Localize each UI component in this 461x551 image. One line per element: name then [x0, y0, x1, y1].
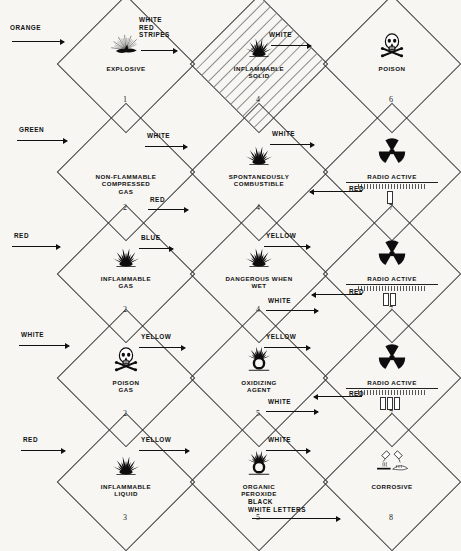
- annotation-arrow: [266, 411, 318, 412]
- radioactive-red-bar: [390, 293, 396, 306]
- annotation-arrow: [314, 396, 362, 397]
- colour-note-white: WHITE: [268, 297, 291, 305]
- placard-diamond: [57, 0, 196, 133]
- placard-diamond: [323, 0, 461, 133]
- placard-label: INFLAMMABLE SOLID: [211, 65, 307, 80]
- placard-diamond: [190, 309, 329, 448]
- colour-note-white: WHITE: [21, 331, 44, 339]
- placard-label: INFLAMMABLE GAS: [78, 275, 174, 290]
- colour-note-green: GREEN: [19, 126, 44, 134]
- placard-diamond: [57, 205, 196, 344]
- colour-note-red: RED: [150, 196, 165, 204]
- trefoil-icon: [375, 342, 409, 372]
- radioactive-rule: [346, 284, 438, 285]
- placard-class-number: 8: [389, 513, 393, 522]
- radioactive-red-bar: [394, 397, 400, 410]
- placard-class-number: 4: [256, 305, 260, 314]
- placard-label: RADIO ACTIVE: [344, 379, 440, 386]
- placard-class-number: 7: [389, 305, 393, 314]
- skull-crossbones-icon: [377, 30, 407, 60]
- annotation-arrow: [19, 345, 69, 346]
- placard-class-number: 4: [256, 95, 260, 104]
- annotation-arrow: [252, 518, 340, 519]
- placard-diamond: [190, 413, 329, 551]
- placard-class-number: 1: [123, 95, 127, 104]
- radioactive-hatching: [358, 184, 426, 189]
- placard-class-number: 2: [123, 305, 127, 314]
- placard-diamond: [323, 205, 461, 344]
- colour-note-yellow: YELLOW: [141, 333, 171, 341]
- radioactive-red-bar: [387, 397, 393, 410]
- placard-label: SPONTANEOUSLY COMBUSTIBLE: [211, 173, 307, 188]
- annotation-arrow: [264, 246, 310, 247]
- annotation-arrow: [141, 50, 177, 51]
- radioactive-rule: [346, 182, 438, 183]
- annotation-arrow: [21, 450, 65, 451]
- annotation-arrow: [148, 209, 188, 210]
- trefoil-icon: [375, 238, 409, 268]
- placard-diamond: [323, 413, 461, 551]
- annotation-arrow: [310, 191, 362, 192]
- placard-class-number: 3: [123, 513, 127, 522]
- placard-label: RADIO ACTIVE: [344, 173, 440, 180]
- colour-note-white: WHITE: [272, 130, 295, 138]
- placard-diamond: [57, 309, 196, 448]
- radioactive-rule: [346, 388, 438, 389]
- flame-icon: [109, 240, 143, 270]
- flame-icon: [242, 240, 276, 270]
- annotation-arrow: [17, 140, 67, 141]
- oxidizer-icon: [242, 448, 276, 478]
- placard-label: EXPLOSIVE: [78, 65, 174, 72]
- placard-class-number: 7: [389, 203, 393, 212]
- colour-note-yellow: YELLOW: [141, 436, 171, 444]
- placard-label: POISON: [344, 65, 440, 72]
- annotation-arrow: [270, 144, 314, 145]
- annotation-arrow: [139, 450, 189, 451]
- radioactive-hatching: [358, 390, 426, 395]
- colour-note-orange: ORANGE: [10, 24, 41, 32]
- placard-label: INFLAMMABLE LIQUID: [78, 483, 174, 498]
- placard-class-number: 6: [389, 95, 393, 104]
- annotation-arrow: [12, 246, 60, 247]
- annotation-arrow: [266, 450, 310, 451]
- radioactive-red-bar: [387, 191, 393, 204]
- placard-class-number: 2: [123, 409, 127, 418]
- colour-note-red: RED: [23, 436, 38, 444]
- placard-label: ORGANIC PEROXIDE: [211, 483, 307, 498]
- placard-label: RADIO ACTIVE: [344, 275, 440, 282]
- colour-note-white: WHITE: [268, 398, 291, 406]
- placard-class-number: 4: [256, 203, 260, 212]
- colour-note-black-white-letters: BLACK WHITE LETTERS: [248, 498, 306, 513]
- explosion-icon: [109, 30, 143, 60]
- annotation-arrow: [312, 294, 362, 295]
- colour-note-white-red-stripes: WHITE RED STRIPES: [139, 16, 170, 39]
- placard-label: NON-FLAMMABLE COMPRESSED GAS: [78, 173, 174, 195]
- annotation-arrow: [12, 41, 64, 42]
- skull-crossbones-icon: [111, 344, 141, 374]
- oxidizer-icon: [242, 344, 276, 374]
- placard-diamond: [323, 309, 461, 448]
- radioactive-red-bar: [383, 293, 389, 306]
- annotation-arrow: [139, 347, 185, 348]
- radioactive-red-bar: [380, 397, 386, 410]
- annotation-arrow: [145, 146, 187, 147]
- placard-label: DANGEROUS WHEN WET: [211, 275, 307, 290]
- placard-class-number: 5: [256, 409, 260, 418]
- placard-diamond: [57, 103, 196, 242]
- placard-label: POISON GAS: [78, 379, 174, 394]
